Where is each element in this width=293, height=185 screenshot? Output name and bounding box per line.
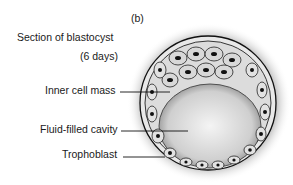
blastocyst-illustration — [0, 0, 293, 185]
